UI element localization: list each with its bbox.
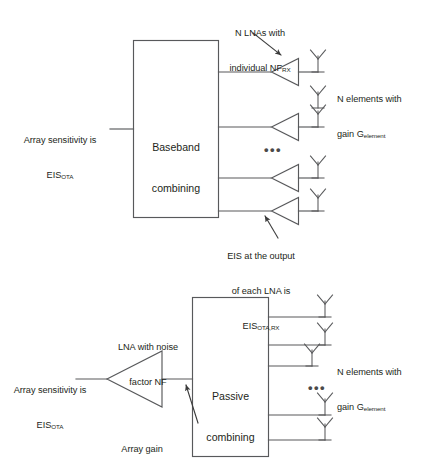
eis-output-base: EIS	[243, 321, 258, 331]
top-n-elements-line1: N elements with	[337, 94, 426, 106]
diagram-canvas: Baseband combining Array sensitivity is …	[0, 0, 426, 469]
top-array-sensitivity-label: Array sensitivity is EISOTA	[8, 112, 112, 206]
bottom-array-sensitivity-line1: Array sensitivity is	[0, 385, 102, 397]
baseband-combining-label-line1: Baseband	[133, 141, 219, 155]
n-lnas-callout-line1: N LNAs with	[203, 28, 317, 40]
top-amplifier-2	[272, 114, 299, 141]
top-n-elements-line2: gain Gelement	[337, 129, 426, 142]
bottom-n-elements-line1: N elements with	[337, 367, 426, 379]
baseband-combining-label: Baseband combining	[133, 114, 219, 222]
n-lnas-nf-sub: RX	[282, 66, 290, 73]
top-array-sensitivity-line2: EISOTA	[8, 170, 112, 183]
lna-noise-factor-line1: LNA with noise	[96, 342, 200, 354]
lna-noise-factor-line2: factor NF	[96, 377, 200, 389]
passive-combining-label: Passive combining	[192, 363, 269, 469]
bottom-gain-base: gain G	[337, 402, 364, 412]
antenna-icon-bottom-5	[318, 418, 333, 440]
eis-output-callout-line1: EIS at the output	[193, 251, 329, 263]
n-lnas-callout-line2: individual NFRX	[203, 63, 317, 76]
eis-output-callout-line2: of each LNA is	[193, 286, 329, 298]
top-gain-base: gain G	[337, 129, 364, 139]
n-lnas-nf-base: individual NF	[230, 63, 282, 73]
passive-combining-label-line1: Passive	[192, 390, 269, 404]
top-ellipsis: •••	[264, 142, 282, 157]
top-amplifier-3	[272, 165, 299, 192]
top-gain-sub: element	[364, 132, 386, 139]
eis-output-sub: OTA,RX	[257, 324, 279, 331]
bottom-eis-base: EIS	[37, 420, 52, 430]
top-eis-base: EIS	[47, 170, 62, 180]
antenna-icon-bottom-4	[318, 393, 333, 415]
lna-noise-factor-label: LNA with noise factor NF	[96, 319, 200, 412]
bottom-n-elements-line2: gain Gelement	[337, 402, 426, 415]
bottom-eis-sub: OTA	[51, 423, 63, 430]
bottom-n-elements-label: N elements with gain Gelement	[337, 344, 426, 438]
top-eis-sub: OTA	[61, 173, 73, 180]
top-amplifier-4	[272, 198, 299, 225]
array-gain-label: Array gain 10log(N) + Gelement	[86, 421, 198, 469]
array-gain-line1: Array gain	[86, 444, 198, 456]
bottom-ellipsis: •••	[308, 380, 326, 395]
antenna-icon-top-4	[311, 156, 326, 178]
eis-output-callout-line3: EISOTA,RX	[193, 321, 329, 334]
antenna-icon-top-5	[311, 189, 326, 211]
passive-combining-label-line2: combining	[192, 431, 269, 445]
n-lnas-callout-label: N LNAs with individual NFRX	[203, 5, 317, 99]
top-array-sensitivity-line1: Array sensitivity is	[8, 135, 112, 147]
top-n-elements-label: N elements with gain Gelement	[337, 71, 426, 165]
eis-output-callout-label: EIS at the output of each LNA is EISOTA,…	[193, 228, 329, 357]
bottom-gain-sub: element	[364, 405, 386, 412]
baseband-combining-label-line2: combining	[133, 182, 219, 196]
